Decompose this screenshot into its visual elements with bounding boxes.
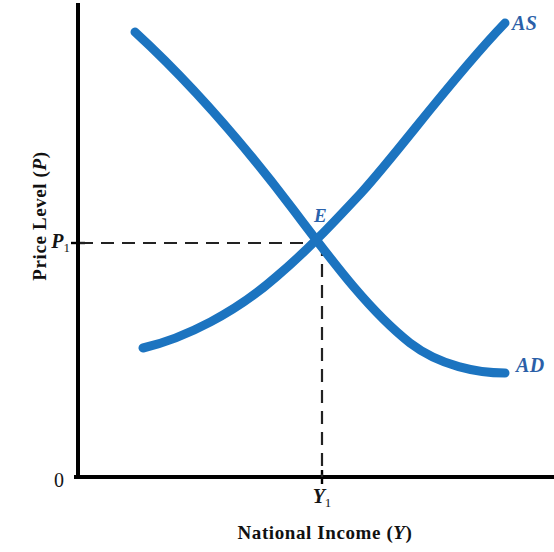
- tick-marks-group: [71, 243, 322, 484]
- guide-lines-group: [80, 243, 322, 477]
- y-axis-title: Price Level (P): [29, 116, 51, 316]
- as-curve: [143, 23, 505, 348]
- x-axis-title-symbol: Y: [393, 522, 405, 543]
- x-axis-title-suffix: ): [406, 522, 413, 543]
- origin-label: 0: [54, 469, 64, 492]
- y-axis-title-suffix: ): [29, 151, 50, 158]
- ad-as-diagram: Price Level (P) National Income (Y) 0 P1…: [0, 0, 554, 552]
- chart-canvas: [0, 0, 554, 552]
- x-axis-title-prefix: National Income (: [237, 522, 393, 543]
- y-axis-title-symbol: P: [29, 158, 50, 170]
- x-tick-symbol: Y: [313, 485, 325, 507]
- ad-curve-label: AD: [516, 354, 545, 377]
- as-curve-label: AS: [512, 12, 537, 35]
- x-tick-subscript: 1: [325, 495, 332, 510]
- x-axis-title: National Income (Y): [150, 522, 500, 544]
- y-tick-subscript: 1: [64, 240, 71, 255]
- x-tick-label-y1: Y1: [292, 485, 352, 508]
- y-axis-title-prefix: Price Level (: [29, 171, 50, 281]
- equilibrium-point-label: E: [314, 205, 327, 227]
- y-tick-symbol: P: [51, 230, 63, 252]
- y-tick-label-p1: P1: [0, 230, 70, 253]
